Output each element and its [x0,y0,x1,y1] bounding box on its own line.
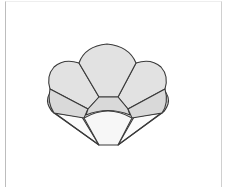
shell-drawing [0,0,230,187]
